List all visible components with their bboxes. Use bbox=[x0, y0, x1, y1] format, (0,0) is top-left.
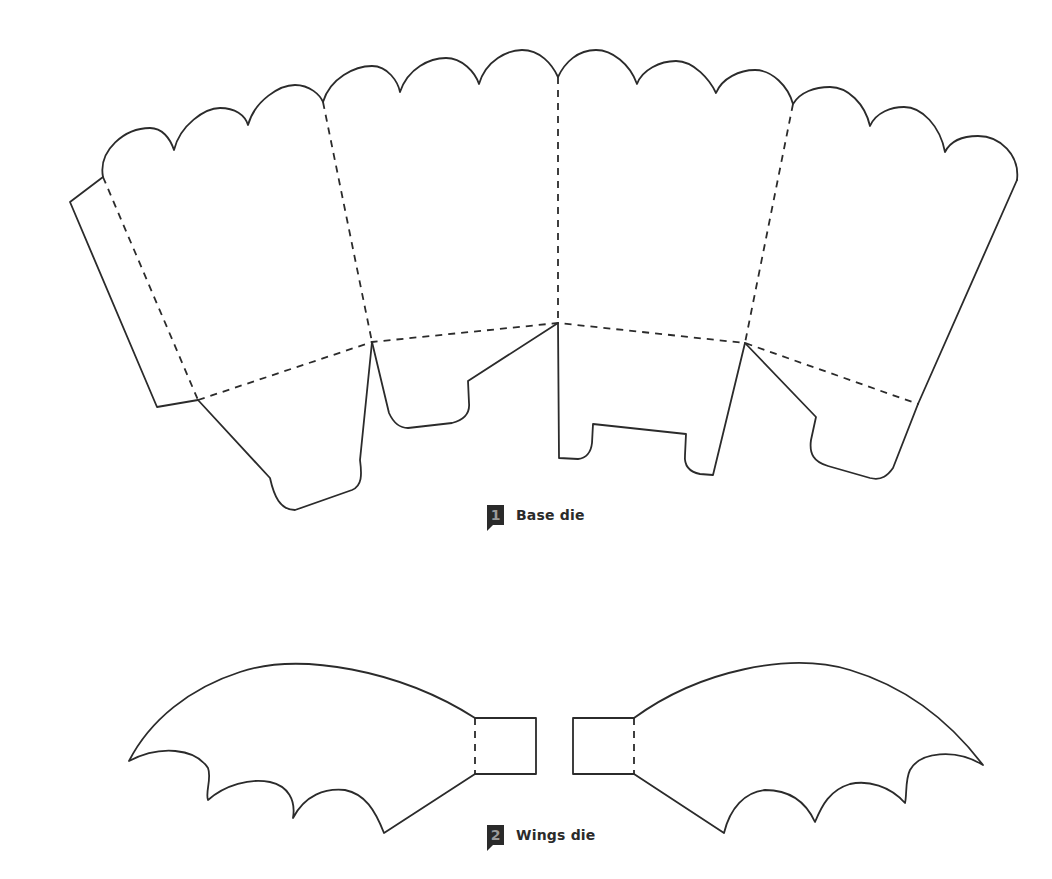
base-die-caption: 1 Base die bbox=[487, 505, 585, 525]
base-die bbox=[70, 50, 1017, 510]
base-right-outer-edge bbox=[918, 180, 1017, 404]
right-wing-outline bbox=[634, 663, 983, 833]
wings-die-label: Wings die bbox=[516, 827, 596, 843]
base-bottom-tab-4 bbox=[745, 343, 918, 479]
base-bottom-tab-1 bbox=[198, 342, 372, 510]
figure-number-badge: 1 bbox=[487, 505, 504, 525]
base-left-glue-flap bbox=[70, 177, 198, 407]
right-wing-tab bbox=[573, 718, 634, 774]
base-fold-line-4 bbox=[745, 104, 793, 343]
base-bottom-tab-3 bbox=[558, 323, 745, 475]
wings-die bbox=[129, 663, 983, 833]
base-scalloped-top-edge bbox=[102, 50, 1017, 180]
left-wing-tab bbox=[475, 718, 536, 774]
left-wing-outline bbox=[129, 664, 475, 833]
base-fold-line-2 bbox=[323, 102, 372, 342]
figure-number-badge: 2 bbox=[487, 825, 504, 845]
base-fold-line-1 bbox=[103, 177, 198, 400]
die-template-canvas bbox=[0, 0, 1052, 879]
base-die-label: Base die bbox=[516, 507, 585, 523]
wings-die-caption: 2 Wings die bbox=[487, 825, 596, 845]
